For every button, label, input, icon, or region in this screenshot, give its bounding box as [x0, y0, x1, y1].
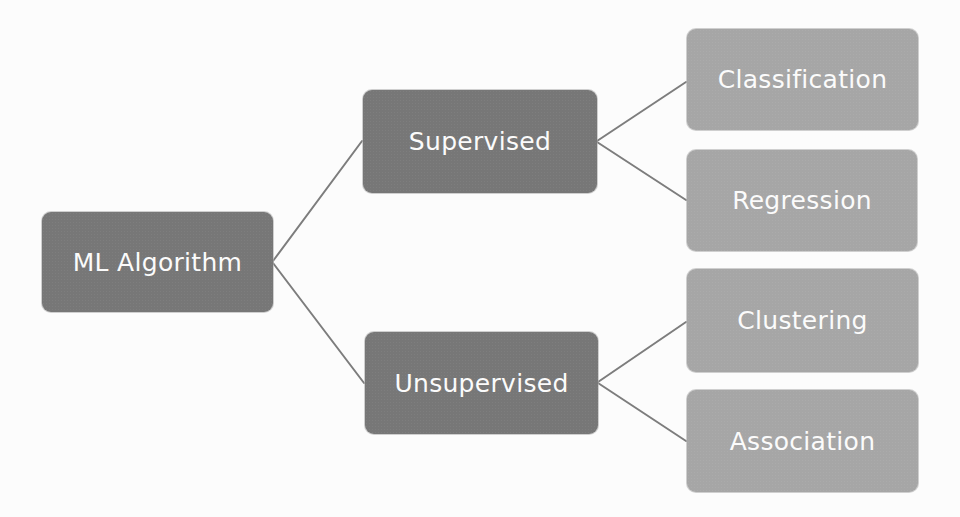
node-label: Association [730, 427, 876, 456]
node-label: Unsupervised [394, 369, 568, 398]
node-regression: Regression [687, 150, 917, 251]
node-supervised: Supervised [363, 90, 597, 193]
node-classification: Classification [687, 29, 918, 130]
node-association: Association [687, 390, 918, 492]
node-label: Regression [732, 186, 872, 215]
node-ml-algorithm: ML Algorithm [42, 212, 273, 312]
edge-supervised-regression [597, 142, 686, 200]
node-clustering: Clustering [687, 269, 918, 372]
node-label: Clustering [737, 306, 867, 335]
node-label: Supervised [409, 127, 551, 156]
node-unsupervised: Unsupervised [365, 332, 598, 434]
edge-supervised-classification [597, 82, 686, 141]
diagram-canvas: ML Algorithm Supervised Unsupervised Cla… [0, 0, 960, 517]
node-label: Classification [718, 65, 888, 94]
edge-unsupervised-association [598, 383, 686, 441]
edge-unsupervised-clustering [598, 322, 686, 382]
node-label: ML Algorithm [73, 248, 242, 277]
edge-root-unsupervised [273, 263, 364, 383]
edge-root-supervised [273, 141, 362, 261]
